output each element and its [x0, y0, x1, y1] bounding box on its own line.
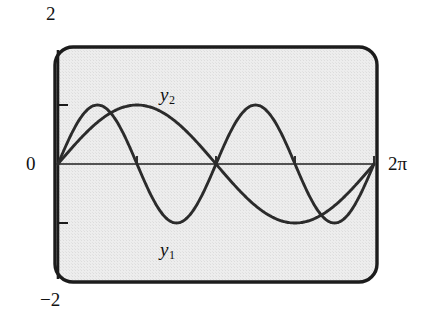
curve-label-y2-base: y [160, 84, 168, 105]
curve-label-y1: y1 [160, 240, 174, 259]
plot-canvas [0, 0, 433, 317]
curve-label-y1-base: y [160, 239, 168, 260]
y-axis-min-label: −2 [40, 290, 60, 309]
curve-label-y2-subscript: 2 [169, 93, 175, 107]
curve-label-y2: y2 [160, 85, 174, 104]
y-axis-max-label: 2 [46, 4, 56, 23]
y-axis-origin-label: 0 [26, 154, 36, 173]
sine-wave-figure: 2 −2 0 2π y2 y1 [0, 0, 433, 317]
x-axis-max-label: 2π [388, 154, 407, 173]
curve-label-y1-subscript: 1 [169, 248, 175, 262]
